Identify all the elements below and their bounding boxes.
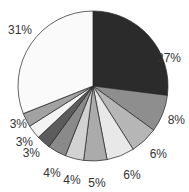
slice-label: 3% <box>16 135 34 149</box>
slice-label: 27% <box>157 51 181 65</box>
pie-chart: 27%8%6%6%5%4%4%3%3%3%31% <box>0 0 189 192</box>
slice-label: 6% <box>150 147 168 161</box>
slice-label: 5% <box>88 176 106 190</box>
slice-label: 6% <box>123 168 141 182</box>
slice-label: 8% <box>168 113 186 127</box>
slice-label: 4% <box>43 166 61 180</box>
slice-label: 3% <box>10 117 28 131</box>
slice-label: 4% <box>63 173 81 187</box>
slice-label: 31% <box>8 23 32 37</box>
pie-slices <box>18 11 168 161</box>
